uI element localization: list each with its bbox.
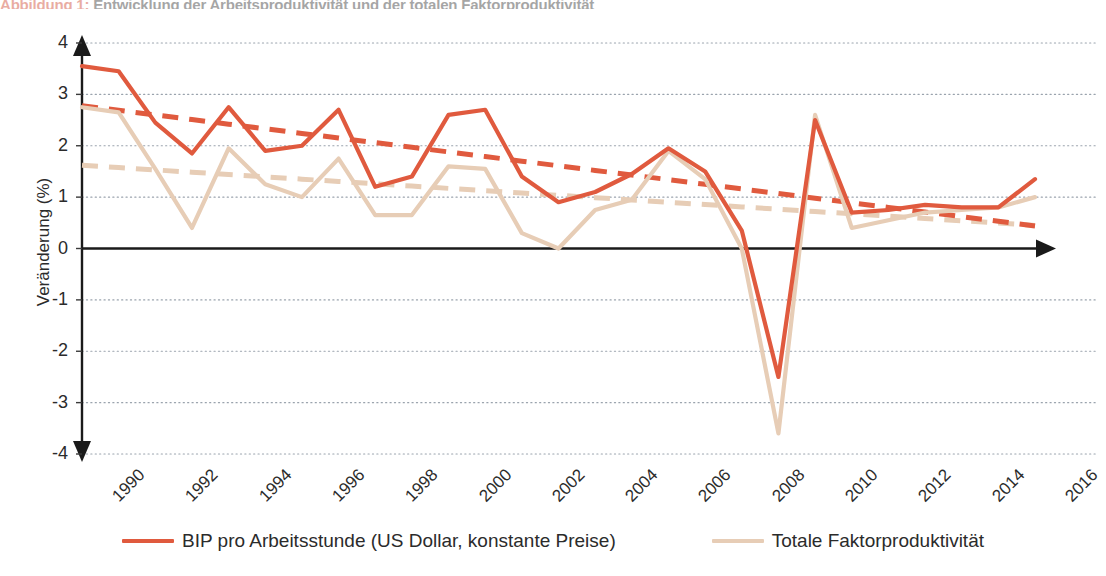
y-axis-tick-label: 4 <box>34 33 68 51</box>
chart-legend: BIP pro Arbeitsstunde (US Dollar, konsta… <box>0 522 1106 576</box>
y-axis-tick-label: -1 <box>34 290 68 308</box>
series-line-path <box>82 107 1035 433</box>
y-axis-tick-label: 2 <box>34 136 68 154</box>
legend-line-swatch-icon <box>712 539 764 543</box>
chart-plot-area: Veränderung (%) 43210-1-2-3-4 1990199219… <box>0 0 1106 520</box>
y-axis-tick-label: 1 <box>34 187 68 205</box>
line-chart-svg <box>0 0 1106 520</box>
x-axis-arrow-right-icon <box>1036 240 1056 258</box>
legend-entry[interactable]: Totale Faktorproduktivität <box>712 531 984 550</box>
figure-root: Abbildung 1: Entwicklung der Arbeitsprod… <box>0 0 1106 576</box>
data-series-group <box>82 66 1035 433</box>
legend-line-swatch-icon <box>122 539 174 543</box>
legend-label: BIP pro Arbeitsstunde (US Dollar, konsta… <box>182 531 616 550</box>
y-axis-tick-label: 0 <box>34 239 68 257</box>
y-axis-arrow-down-icon <box>73 441 91 462</box>
y-axis-arrow-up-icon <box>73 35 91 56</box>
y-axis-tick-label: -3 <box>34 393 68 411</box>
legend-label: Totale Faktorproduktivität <box>772 531 984 550</box>
legend-entry[interactable]: BIP pro Arbeitsstunde (US Dollar, konsta… <box>122 531 616 550</box>
axes <box>73 35 1056 462</box>
y-axis-tick-label: -4 <box>34 444 68 462</box>
y-axis-tick-label: 3 <box>34 84 68 102</box>
trendline-path <box>82 165 1035 225</box>
y-axis-tick-label: -2 <box>34 341 68 359</box>
